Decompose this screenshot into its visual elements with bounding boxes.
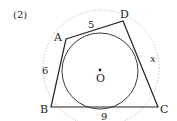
- side-bc-length: 9: [101, 111, 107, 121]
- center-label: O: [96, 72, 105, 85]
- center-point: [99, 69, 102, 72]
- side-dc-length: x: [150, 53, 156, 64]
- vertex-b-label: B: [40, 103, 48, 116]
- side-ab-length: 6: [42, 65, 48, 76]
- problem-label: (2): [13, 9, 27, 20]
- vertex-a-label: A: [53, 31, 63, 44]
- quadrilateral-abcd: [51, 21, 158, 107]
- geometry-diagram: (2) A D C B O 5 6 9 x: [0, 0, 177, 121]
- side-ad-length: 5: [88, 19, 94, 30]
- vertex-d-label: D: [120, 8, 129, 21]
- vertex-c-label: C: [160, 103, 168, 116]
